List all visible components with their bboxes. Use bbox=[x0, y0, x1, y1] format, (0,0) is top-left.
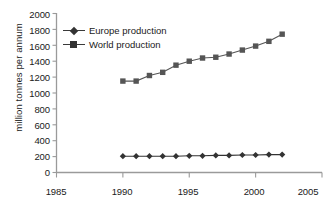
data-point-marker bbox=[226, 152, 232, 158]
data-point-marker bbox=[266, 151, 272, 157]
data-point-marker bbox=[279, 31, 284, 36]
data-point-marker bbox=[200, 55, 205, 60]
data-point-marker bbox=[133, 78, 138, 83]
chart-container: million tonnes per annum 2000 1800 1600 … bbox=[0, 0, 330, 211]
data-point-marker bbox=[213, 152, 219, 158]
data-point-marker bbox=[187, 59, 192, 64]
data-point-marker bbox=[146, 153, 152, 159]
data-point-marker bbox=[226, 51, 231, 56]
data-point-marker bbox=[160, 70, 165, 75]
data-point-marker bbox=[120, 78, 125, 83]
data-point-marker bbox=[213, 55, 218, 60]
series-europe-production bbox=[120, 151, 286, 159]
data-point-marker bbox=[240, 47, 245, 52]
data-point-marker bbox=[279, 151, 285, 157]
series-world-production bbox=[120, 31, 285, 83]
data-point-marker bbox=[160, 153, 166, 159]
data-point-marker bbox=[120, 153, 126, 159]
data-point-marker bbox=[239, 152, 245, 158]
data-point-marker bbox=[133, 153, 139, 159]
data-point-marker bbox=[186, 153, 192, 159]
data-point-marker bbox=[173, 62, 178, 67]
plot-area bbox=[0, 0, 330, 211]
data-point-marker bbox=[173, 153, 179, 159]
data-point-marker bbox=[266, 39, 271, 44]
data-point-marker bbox=[199, 153, 205, 159]
data-point-marker bbox=[147, 73, 152, 78]
data-point-marker bbox=[253, 43, 258, 48]
data-point-marker bbox=[253, 152, 259, 158]
